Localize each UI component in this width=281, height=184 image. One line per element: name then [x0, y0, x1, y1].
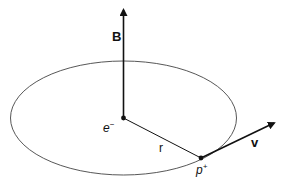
velocity-label: v: [251, 136, 258, 149]
electron-label: e−: [103, 121, 114, 134]
electron-dot: [121, 116, 126, 121]
proton-label: p+: [196, 163, 207, 176]
b-field-label: B: [112, 30, 121, 43]
orbit-diagram: B e− r v p+: [0, 0, 281, 184]
diagram-graphics: [0, 0, 281, 184]
radius-label: r: [159, 142, 163, 154]
velocity-arrow: [201, 123, 274, 158]
proton-dot: [199, 156, 204, 161]
